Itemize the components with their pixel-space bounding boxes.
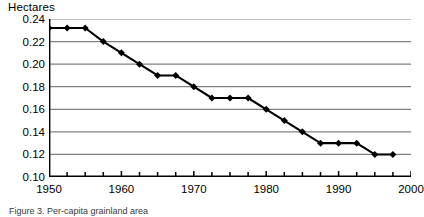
x-tick-label: 1980 [253, 183, 279, 195]
x-tick-label: 1990 [326, 183, 352, 195]
x-tick-label: 1960 [109, 183, 135, 195]
chart-figure: Hectares 0.240.220.200.180.160.140.120.1… [0, 0, 424, 217]
x-tick-label: 1970 [181, 183, 207, 195]
x-tick-label: 1950 [36, 183, 62, 195]
x-axis-tick-labels: 195019601970198019902000 [0, 0, 424, 217]
figure-caption: Figure 3. Per-capita grainland area [9, 205, 419, 217]
x-tick-label: 2000 [398, 183, 424, 195]
